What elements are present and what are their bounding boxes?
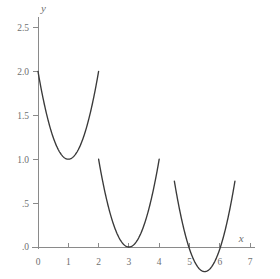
data-curves xyxy=(38,71,235,271)
parabola-segment xyxy=(174,181,235,271)
y-tick-label: 2.5 xyxy=(17,23,29,33)
y-tick-label: .0 xyxy=(22,242,29,252)
x-axis-label: x xyxy=(238,232,244,244)
x-tick-label: 0 xyxy=(36,257,41,267)
plot-figure: 01234567 2.52.01.51.0.5.0 x y xyxy=(0,0,280,279)
plot-canvas: 01234567 2.52.01.51.0.5.0 x y xyxy=(0,0,280,279)
y-axis-ticks: 2.52.01.51.0.5.0 xyxy=(17,23,39,253)
parabola-segment xyxy=(99,159,160,247)
y-axis-label: y xyxy=(40,2,46,14)
axes-group xyxy=(32,17,255,249)
y-tick-label: 1.5 xyxy=(17,111,29,121)
x-tick-label: 7 xyxy=(248,257,253,267)
parabola-segment xyxy=(38,71,99,159)
y-tick-label: 1.0 xyxy=(17,155,29,165)
x-tick-label: 1 xyxy=(66,257,71,267)
y-tick-label: .5 xyxy=(22,199,29,209)
y-tick-label: 2.0 xyxy=(17,67,29,77)
x-tick-label: 6 xyxy=(217,257,222,267)
x-tick-label: 5 xyxy=(187,257,192,267)
x-tick-label: 2 xyxy=(96,257,101,267)
x-tick-label: 4 xyxy=(157,257,162,267)
x-tick-label: 3 xyxy=(127,257,132,267)
